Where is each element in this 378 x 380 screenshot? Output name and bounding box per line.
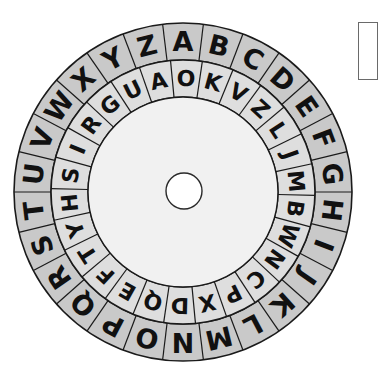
inner_ring-letter-o: O: [176, 66, 195, 91]
outer_ring-letter-h: H: [316, 197, 349, 223]
pivot-hole-icon: [166, 173, 202, 209]
outer_ring-letter-u: U: [17, 161, 50, 187]
outer_ring-letter-n: N: [172, 327, 195, 358]
inner_ring-letter-d: D: [171, 293, 190, 318]
inner_ring-letter-h: H: [57, 192, 84, 213]
outer_ring-letter-g: G: [316, 161, 349, 187]
outer_ring-letter-a: A: [173, 26, 194, 57]
side-box: [358, 22, 378, 80]
inner_ring-letter-m: M: [283, 169, 310, 193]
